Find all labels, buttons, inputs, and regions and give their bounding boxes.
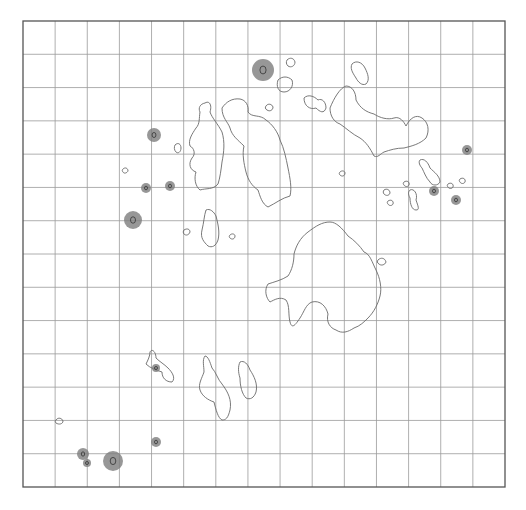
marker-m2: [147, 128, 161, 142]
marker-m1: [252, 59, 274, 81]
contour-map: [0, 0, 526, 510]
marker-m9: [152, 364, 160, 372]
marker-m11: [77, 448, 89, 460]
shaded-circle-icon: [124, 211, 142, 229]
shaded-circle-icon: [152, 364, 160, 372]
shaded-circle-icon: [83, 459, 91, 467]
shaded-circle-icon: [151, 437, 161, 447]
shaded-circle-icon: [77, 448, 89, 460]
shaded-circle-icon: [147, 128, 161, 142]
shaded-circle-icon: [451, 195, 461, 205]
marker-m13: [103, 451, 123, 471]
shaded-circle-icon: [429, 186, 439, 196]
shaded-circle-icon: [252, 59, 274, 81]
marker-m8: [451, 195, 461, 205]
marker-m5: [124, 211, 142, 229]
shaded-circle-icon: [141, 183, 151, 193]
shaded-circle-icon: [103, 451, 123, 471]
shaded-circle-icon: [462, 145, 472, 155]
marker-m6: [462, 145, 472, 155]
marker-m7: [429, 186, 439, 196]
marker-m12: [83, 459, 91, 467]
marker-m10: [151, 437, 161, 447]
marker-m4: [165, 181, 175, 191]
marker-m3: [141, 183, 151, 193]
shaded-circle-icon: [165, 181, 175, 191]
